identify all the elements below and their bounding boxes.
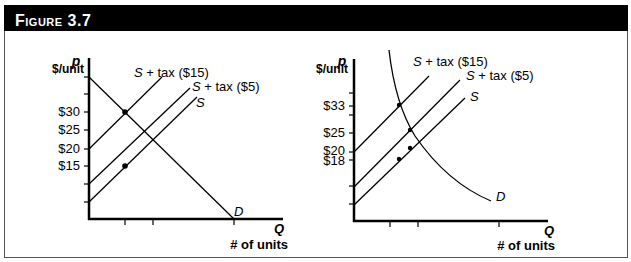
left-tick-30: $30	[58, 104, 80, 119]
left-supply-tax5-line	[89, 88, 190, 184]
left-point-buyer-price	[122, 109, 128, 115]
right-label-s-tax15: S + tax ($15)	[413, 54, 488, 69]
left-unit-label: $/unit	[52, 62, 84, 76]
right-point-tax15-equilibrium	[397, 103, 401, 107]
left-q-label: Q	[274, 221, 284, 236]
left-point-seller-price	[122, 163, 128, 169]
left-demand-line	[89, 77, 234, 219]
right-point-tax15-seller	[397, 157, 401, 161]
right-point-tax5-equilibrium	[408, 128, 412, 132]
figure-charts: p $/unit $30 $25 $20 $15 S + tax ($15) S…	[0, 0, 631, 262]
left-x-axis-title: # of units	[230, 237, 288, 252]
left-label-s: S	[196, 95, 205, 110]
left-tick-25: $25	[58, 122, 80, 137]
left-label-d: D	[234, 204, 243, 219]
right-unit-label: $/unit	[316, 62, 348, 76]
right-label-s-tax5: S + tax ($5)	[466, 68, 534, 83]
left-label-s-tax15: S + tax ($15)	[134, 65, 209, 80]
right-q-label: Q	[544, 223, 554, 238]
left-chart: p $/unit $30 $25 $20 $15 S + tax ($15) S…	[52, 53, 288, 252]
right-label-s: S	[470, 89, 479, 104]
left-label-s-tax5: S + tax ($5)	[192, 79, 260, 94]
right-tick-25: $25	[323, 125, 345, 140]
right-tick-18: $18	[323, 153, 345, 168]
right-chart: p $/unit $33 $25 $20 $18 S + tax ($15) S…	[316, 50, 555, 253]
left-supply-line	[89, 97, 197, 202]
right-x-axis-title: # of units	[497, 238, 555, 253]
left-tick-20: $20	[58, 141, 80, 156]
left-tick-15: $15	[58, 158, 80, 173]
right-label-d: D	[496, 189, 505, 204]
right-tick-33: $33	[323, 98, 345, 113]
right-supply-line	[354, 98, 465, 205]
right-point-tax5-seller	[408, 146, 412, 150]
